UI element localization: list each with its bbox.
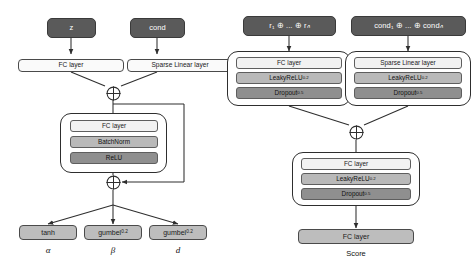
discriminator-left-leakyrelu-subscript: 0.2	[303, 76, 309, 80]
discriminator-left-leakyrelu: LeakyReLU0.2	[236, 72, 342, 84]
generator-input-cond-label: cond	[149, 24, 166, 32]
discriminator-input-conds-label: cond₁ ⊕ ... ⊕ condₙ	[374, 22, 443, 30]
generator-residual-fc-layer-label: FC layer	[102, 123, 126, 129]
discriminator-head-leakyrelu-label: LeakyReLU	[336, 176, 369, 182]
generator-output-tanh-label: tanh	[41, 229, 55, 236]
discriminator-input-conds: cond₁ ⊕ ... ⊕ condₙ	[351, 16, 466, 36]
generator-output-symbol-d: d	[149, 245, 207, 255]
discriminator-head-dropout: Dropout0.5	[301, 188, 411, 200]
generator-fc-layer-label: FC layer	[59, 62, 84, 69]
generator-residual-relu-label: ReLU	[106, 155, 122, 161]
discriminator-input-rows: r₁ ⊕ ... ⊕ rₙ	[243, 16, 336, 36]
generator-output-gumbel-beta: gumbel0.2	[84, 225, 142, 240]
discriminator-output-fc-layer-label: FC layer	[343, 233, 369, 240]
discriminator-left-leakyrelu-label: LeakyReLU	[269, 75, 302, 81]
discriminator-right-dropout-subscript: 0.5	[416, 91, 422, 95]
generator-input-latent-label: z	[70, 24, 74, 32]
discriminator-right-dropout: Dropout0.5	[354, 87, 462, 99]
generator-output-gumbel-d: gumbel0.2	[149, 225, 207, 240]
generator-residual-add-circled-plus-icon	[106, 175, 121, 190]
discriminator-right-dropout-label: Dropout	[394, 90, 417, 96]
generator-residual-fc-layer: FC layer	[70, 120, 158, 132]
generator-fc-layer: FC layer	[18, 59, 124, 72]
discriminator-merge-circled-plus-icon	[349, 125, 364, 140]
generator-residual-relu: ReLU	[70, 152, 158, 164]
discriminator-head-fc-layer: FC layer	[301, 158, 411, 170]
discriminator-right-leakyrelu: LeakyReLU0.2	[354, 72, 462, 84]
discriminator-left-fc-layer-label: FC layer	[277, 60, 301, 66]
generator-sparse-linear-layer: Sparse Linear layer	[127, 59, 233, 72]
generator-output-symbol-beta: β	[84, 245, 142, 255]
discriminator-right-sparse-linear-layer: Sparse Linear layer	[354, 57, 462, 69]
discriminator-left-dropout-subscript: 0.5	[297, 91, 303, 95]
discriminator-output-fc-layer: FC layer	[298, 229, 414, 244]
diagram-canvas: z cond FC layer Sparse Linear layer FC l…	[0, 0, 474, 271]
generator-output-gumbel-beta-label: gumbel	[98, 229, 121, 236]
discriminator-head-fc-layer-label: FC layer	[344, 161, 368, 167]
discriminator-input-rows-label: r₁ ⊕ ... ⊕ rₙ	[269, 22, 309, 30]
discriminator-head-dropout-label: Dropout	[342, 191, 365, 197]
discriminator-right-sparse-linear-layer-label: Sparse Linear layer	[380, 60, 435, 66]
generator-output-gumbel-d-subscript: 0.2	[186, 230, 193, 235]
discriminator-right-leakyrelu-subscript: 0.2	[422, 76, 428, 80]
generator-output-tanh: tanh	[19, 225, 77, 240]
discriminator-score-caption: Score	[298, 249, 414, 258]
discriminator-left-dropout: Dropout0.5	[236, 87, 342, 99]
generator-sparse-linear-layer-label: Sparse Linear layer	[151, 62, 208, 69]
generator-output-symbol-alpha: α	[19, 245, 77, 255]
discriminator-left-dropout-label: Dropout	[275, 90, 298, 96]
generator-output-gumbel-beta-subscript: 0.2	[121, 230, 128, 235]
discriminator-head-leakyrelu: LeakyReLU0.2	[301, 173, 411, 185]
generator-residual-batchnorm-label: BatchNorm	[98, 139, 130, 145]
generator-merge-circled-plus-icon	[106, 86, 121, 101]
discriminator-head-dropout-subscript: 0.5	[364, 192, 370, 196]
discriminator-head-leakyrelu-subscript: 0.2	[370, 177, 376, 181]
generator-input-latent: z	[47, 18, 96, 38]
generator-input-cond: cond	[130, 18, 185, 38]
discriminator-left-fc-layer: FC layer	[236, 57, 342, 69]
generator-output-gumbel-d-label: gumbel	[163, 229, 186, 236]
discriminator-right-leakyrelu-label: LeakyReLU	[388, 75, 421, 81]
generator-residual-batchnorm: BatchNorm	[70, 136, 158, 148]
